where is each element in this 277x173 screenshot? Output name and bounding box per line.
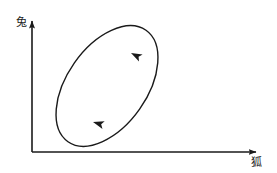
y-axis-label: 兔 [16, 15, 27, 29]
phase-portrait-figure: 兔 狐 [0, 0, 277, 173]
direction-arrows [92, 49, 143, 128]
closed-limit-cycle [35, 7, 179, 164]
phase-portrait-canvas: 兔 狐 [0, 0, 277, 173]
upper-right-direction-arrow [129, 49, 142, 61]
lower-left-direction-arrow [92, 118, 105, 129]
orbit-group [35, 7, 179, 164]
x-axis-label: 狐 [251, 155, 262, 169]
